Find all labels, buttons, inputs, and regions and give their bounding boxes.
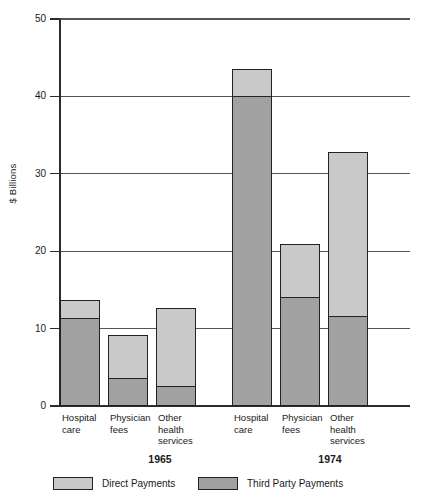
bar-chart: $ Billions 50403020100 HospitalcarePhysi…: [0, 0, 430, 500]
x-label-1974-hospital-care: Hospitalcare: [234, 412, 280, 435]
x-label-1965-hospital-care: Hospitalcare: [62, 412, 108, 435]
bar-segment-third-party: [157, 386, 195, 405]
y-tick-label-50: 50: [4, 13, 46, 24]
legend-label-direct-payments: Direct Payments: [102, 477, 175, 490]
y-tick-label-40: 40: [4, 90, 46, 101]
bar-1974-physician-fees: [280, 244, 320, 406]
x-label-1974-physician-fees: Physicianfees: [282, 412, 328, 435]
y-tick-label-20: 20: [4, 245, 46, 256]
y-tick-label-0: 0: [4, 400, 46, 411]
bar-1965-hospital-care: [60, 300, 100, 406]
legend-swatch-third-party-payments: [198, 477, 238, 490]
bar-segment-third-party: [61, 318, 99, 405]
bar-1965-other-health-services: [156, 308, 196, 406]
bar-segment-third-party: [281, 297, 319, 405]
bar-segment-third-party: [233, 96, 271, 405]
group-label-1965: 1965: [130, 453, 190, 465]
y-axis-title: $ Billions: [7, 148, 18, 220]
x-label-1974-other-health-services: Otherhealthservices: [330, 412, 376, 447]
gridline-50: [59, 18, 410, 19]
bar-segment-third-party: [329, 316, 367, 405]
group-label-1974: 1974: [300, 453, 360, 465]
y-tick-label-10: 10: [4, 323, 46, 334]
x-label-1965-other-health-services: Otherhealthservices: [158, 412, 204, 447]
bar-1965-physician-fees: [108, 335, 148, 406]
bar-1974-hospital-care: [232, 69, 272, 406]
legend-swatch-direct-payments: [53, 477, 93, 490]
bar-segment-third-party: [109, 378, 147, 405]
bar-1974-other-health-services: [328, 152, 368, 406]
y-tick-label-30: 30: [4, 168, 46, 179]
legend-label-third-party-payments: Third Party Payments: [247, 477, 343, 490]
x-label-1965-physician-fees: Physicianfees: [110, 412, 156, 435]
